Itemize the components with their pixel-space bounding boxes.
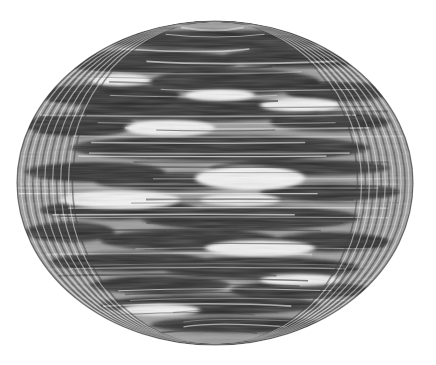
striped-sphere [0,0,436,365]
sphere-image [0,0,436,365]
grain-overlay [0,0,436,365]
